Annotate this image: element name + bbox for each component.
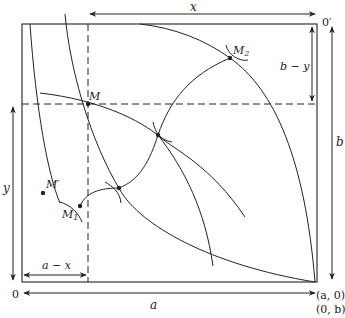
point-Mprime [41, 191, 45, 195]
point-P1 [156, 133, 160, 137]
edgeworth-box-diagram: x 0′ b − y b y a − x 0 a (a, 0) (0, b) M… [0, 0, 345, 318]
label-origin-prime: 0′ [322, 16, 332, 29]
label-y: y [2, 181, 10, 195]
label-M: M [88, 90, 101, 103]
label-Mprime: M′ [45, 178, 60, 191]
point-M1 [78, 204, 82, 208]
indifference-curve-1b [65, 14, 315, 282]
label-b-minus-y: b − y [280, 60, 310, 73]
label-a: a [150, 298, 157, 312]
label-b: b [336, 135, 344, 149]
tangent-tick-P2 [105, 182, 121, 203]
label-corner-a0: (a, 0) [316, 289, 345, 302]
label-corner-0b: (0, b) [316, 303, 345, 316]
contract-curve [80, 58, 230, 206]
label-x: x [190, 0, 197, 14]
label-origin: 0 [12, 288, 19, 301]
indifference-curve-2b [158, 135, 213, 266]
indifference-curve-1d [40, 93, 245, 217]
label-M2: M2 [232, 44, 249, 58]
label-M1: M1 [61, 208, 78, 222]
indifference-curve-1a [30, 24, 60, 203]
label-a-minus-x: a − x [42, 259, 72, 272]
point-P2 [117, 186, 121, 190]
indifference-curve-1c [30, 60, 92, 218]
box-frame [22, 24, 317, 282]
point-M2 [228, 56, 232, 60]
